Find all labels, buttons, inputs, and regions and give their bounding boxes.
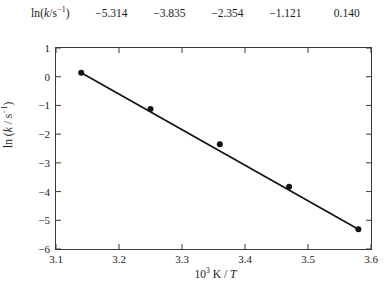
y-title-post: ) bbox=[2, 102, 14, 106]
x-tick-label: 3.5 bbox=[288, 253, 328, 265]
x-axis-title: 103 K / T bbox=[0, 268, 391, 280]
y-tick-label: −2 bbox=[28, 128, 50, 140]
y-tick-label: 0 bbox=[28, 71, 50, 83]
plot-frame bbox=[55, 47, 372, 250]
y-axis-title: ln (k / s−1) bbox=[2, 102, 14, 148]
data-value: −5.314 bbox=[82, 7, 128, 19]
data-point bbox=[286, 184, 292, 190]
y-title-italic: k bbox=[2, 127, 14, 132]
row-label-mid: /s bbox=[49, 7, 57, 19]
data-row-label: ln(k/s−1) bbox=[31, 7, 70, 19]
data-value: 0.140 bbox=[314, 7, 360, 19]
y-title-mid: / s bbox=[2, 114, 14, 127]
y-title-superscript: −1 bbox=[0, 106, 9, 114]
y-tick-label: −5 bbox=[28, 214, 50, 226]
x-tick-label: 3.6 bbox=[351, 253, 391, 265]
x-title-rest: K / bbox=[210, 268, 230, 280]
trend-line bbox=[81, 73, 358, 230]
data-value: −2.354 bbox=[198, 7, 244, 19]
plot-svg bbox=[56, 48, 371, 249]
data-values-list: −5.314 −3.835 −2.354 −1.121 0.140 bbox=[70, 7, 360, 19]
chart-container: ln (k / s−1) 10−1−2−3−4−5−6 3.13.23.33.4… bbox=[0, 30, 391, 296]
data-point bbox=[217, 141, 223, 147]
x-tick-label: 3.3 bbox=[162, 253, 202, 265]
data-point bbox=[148, 106, 154, 112]
x-title-italic: T bbox=[230, 268, 236, 280]
data-value: −1.121 bbox=[256, 7, 302, 19]
row-label-pre: ln( bbox=[31, 7, 44, 19]
x-tick-label: 3.2 bbox=[99, 253, 139, 265]
x-title-base: 10 bbox=[195, 268, 207, 280]
axis-ticks bbox=[56, 48, 371, 249]
y-title-pre: ln ( bbox=[2, 132, 14, 148]
y-tick-label: 1 bbox=[28, 42, 50, 54]
x-tick-label: 3.1 bbox=[36, 253, 76, 265]
y-tick-label: −4 bbox=[28, 186, 50, 198]
y-tick-label: −3 bbox=[28, 157, 50, 169]
data-value: −3.835 bbox=[140, 7, 186, 19]
x-tick-label: 3.4 bbox=[225, 253, 265, 265]
y-tick-label: −1 bbox=[28, 99, 50, 111]
data-table-strip: ln(k/s−1) −5.314 −3.835 −2.354 −1.121 0.… bbox=[0, 0, 391, 26]
data-point bbox=[78, 70, 84, 76]
row-label-superscript: −1 bbox=[57, 5, 66, 14]
data-point bbox=[355, 226, 361, 232]
